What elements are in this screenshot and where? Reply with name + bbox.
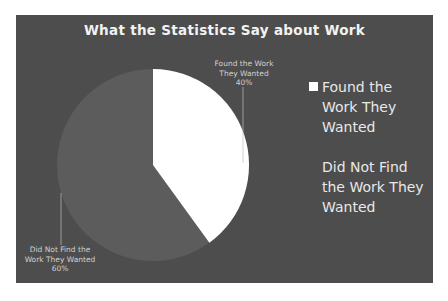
data-label-percent: 40% [209, 78, 279, 88]
data-label-not-found: Did Not Find the Work They Wanted 60% [20, 245, 100, 274]
legend-swatch-white [309, 82, 318, 91]
data-label-text: Found the Work [209, 59, 279, 69]
legend-item-not-found: Did Not Find the Work They Wanted [322, 157, 432, 217]
pie-chart: What the Statistics Say about Work Found… [16, 15, 433, 283]
chart-legend: Found the Work They Wanted Did Not Find … [322, 77, 432, 217]
data-label-text: Did Not Find the [20, 245, 100, 255]
data-label-found: Found the Work They Wanted 40% [209, 59, 279, 88]
data-label-text: Work They Wanted [20, 255, 100, 265]
legend-label: Did Not Find the Work They Wanted [322, 159, 424, 215]
legend-label: Found the Work They Wanted [322, 79, 396, 135]
data-label-text: They Wanted [209, 69, 279, 79]
data-label-percent: 60% [20, 264, 100, 274]
legend-item-found: Found the Work They Wanted [322, 77, 432, 137]
